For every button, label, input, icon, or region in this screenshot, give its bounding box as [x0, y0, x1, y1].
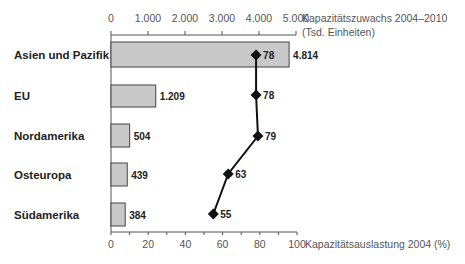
- bar-value-label: 1.209: [160, 91, 185, 102]
- bar-value-label: 4.814: [293, 50, 318, 61]
- top-tick-label: 4.000: [246, 12, 272, 24]
- bottom-axis: 020406080100 Kapazitätsauslastung 2004 (…: [108, 232, 450, 250]
- line-value-label: 78: [263, 50, 275, 61]
- category-label: Osteuropa: [14, 169, 72, 181]
- line-value-label: 79: [265, 131, 277, 142]
- category-label: Asien und Pazifik: [14, 49, 110, 61]
- category-label: EU: [14, 90, 30, 102]
- category-label: Südamerika: [14, 209, 80, 221]
- top-axis-title-line1: Kapazitätszuwachs 2004–2010: [302, 12, 448, 24]
- category-labels: Asien und PazifikEUNordamerikaOsteuropaS…: [14, 49, 110, 221]
- bottom-tick-label: 20: [142, 238, 154, 250]
- bar: [111, 163, 127, 186]
- line-value-label: 63: [235, 169, 247, 180]
- capacity-chart: 01.0002.0003.0004.0005.000 Kapazitätszuw…: [0, 0, 465, 264]
- bar-value-label: 439: [131, 170, 148, 181]
- diamond-marker-icon: [208, 209, 219, 220]
- bar: [111, 203, 125, 226]
- bar-value-label: 384: [129, 210, 146, 221]
- category-label: Nordamerika: [14, 130, 85, 142]
- top-tick-label: 3.000: [209, 12, 235, 24]
- bottom-tick-label: 40: [180, 238, 192, 250]
- bottom-tick-label: 80: [254, 238, 266, 250]
- bottom-tick-label: 0: [108, 238, 114, 250]
- bar: [111, 124, 130, 147]
- top-tick-label: 0: [108, 12, 114, 24]
- bottom-tick-label: 100: [288, 238, 306, 250]
- line-value-label: 55: [220, 209, 232, 220]
- top-axis: 01.0002.0003.0004.0005.000 Kapazitätszuw…: [108, 12, 447, 38]
- line-series: 7878796355: [208, 50, 277, 221]
- top-tick-label: 2.000: [172, 12, 198, 24]
- bar: [111, 85, 156, 107]
- bar-series: 4.8141.209504439384: [111, 42, 319, 226]
- diamond-marker-icon: [251, 90, 262, 101]
- bar-value-label: 504: [134, 131, 151, 142]
- line-value-label: 78: [263, 90, 275, 101]
- bottom-axis-title: Kapazitätsauslastung 2004 (%): [305, 238, 450, 250]
- top-tick-label: 1.000: [135, 12, 161, 24]
- bottom-tick-label: 60: [217, 238, 229, 250]
- top-axis-title-line2: (Tsd. Einheiten): [302, 26, 375, 38]
